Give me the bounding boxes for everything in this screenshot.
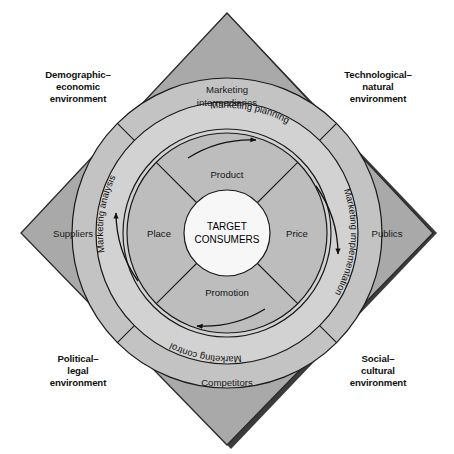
environment-label-political-legal: Political– legal environment (50, 353, 107, 388)
center-line-1: TARGET (207, 221, 247, 232)
actor-intermediaries-line-1: Marketing (206, 84, 248, 95)
env-political-line-2: legal (67, 365, 88, 376)
env-demographic-line-2: economic (56, 81, 101, 92)
mix-label-product: Product (210, 169, 243, 180)
env-technological-line-3: environment (350, 93, 407, 104)
mix-label-price: Price (286, 228, 308, 239)
env-technological-line-1: Technological– (344, 69, 412, 80)
env-political-line-1: Political– (57, 353, 99, 364)
target-consumers-circle (184, 190, 270, 276)
actor-label-publics: Publics (372, 228, 403, 239)
marketing-environment-diagram: Marketing analysis Marketing planning Ma… (0, 0, 454, 454)
actor-competitors-line-1: Competitors (201, 377, 253, 388)
center-line-2: CONSUMERS (194, 234, 259, 245)
environment-label-technological-natural: Technological– natural environment (344, 69, 412, 104)
actor-intermediaries-line-2: intermediaries (197, 97, 257, 108)
actor-publics-line-1: Publics (372, 228, 403, 239)
actor-label-suppliers: Suppliers (53, 228, 93, 239)
diagram-canvas: Marketing analysis Marketing planning Ma… (0, 0, 454, 454)
mix-label-place: Place (147, 228, 171, 239)
actor-label-competitors: Competitors (201, 377, 253, 388)
env-demographic-line-1: Demographic– (45, 69, 111, 80)
environment-label-social-cultural: Social– cultural environment (350, 353, 407, 388)
actor-suppliers-line-1: Suppliers (53, 228, 93, 239)
mix-label-promotion: Promotion (205, 287, 249, 298)
env-technological-line-2: natural (362, 81, 393, 92)
env-social-line-2: cultural (361, 365, 395, 376)
env-demographic-line-3: environment (50, 93, 107, 104)
env-social-line-3: environment (350, 377, 407, 388)
environment-label-demographic-economic: Demographic– economic environment (45, 69, 111, 104)
env-political-line-3: environment (50, 377, 107, 388)
env-social-line-1: Social– (362, 353, 396, 364)
